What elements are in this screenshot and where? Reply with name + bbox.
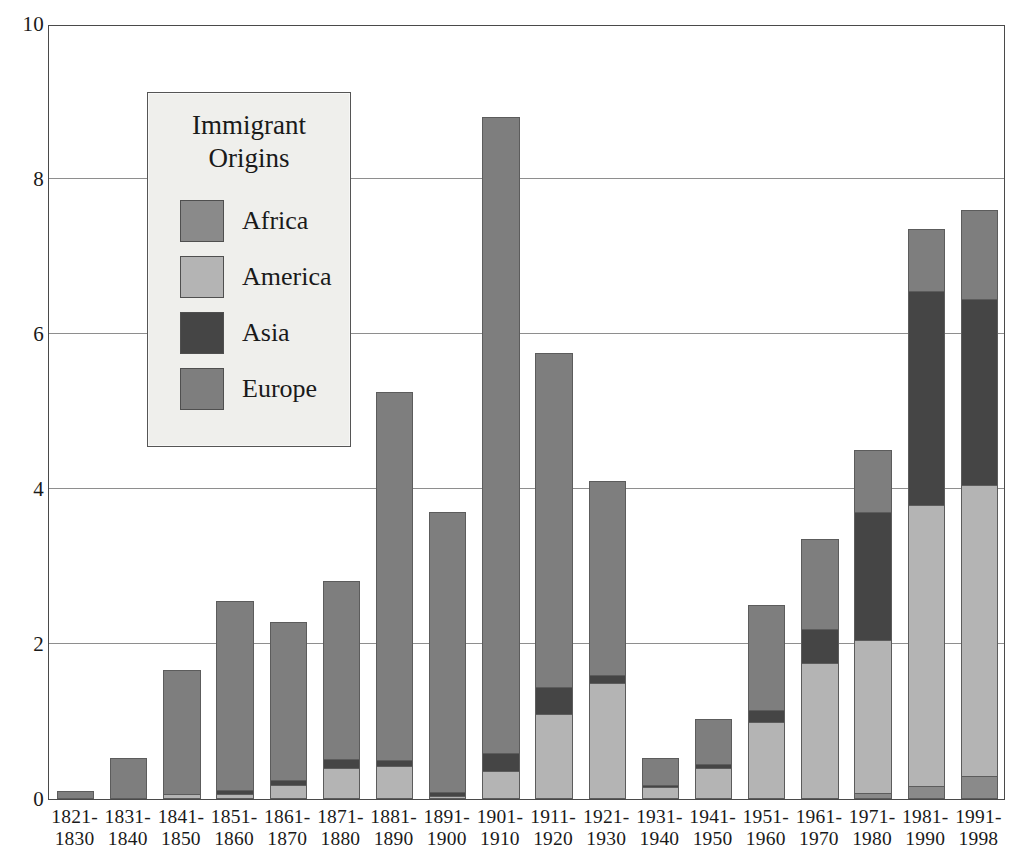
bar-group[interactable] [535,24,572,799]
bar-segment-asia[interactable] [908,291,945,504]
bar-group[interactable] [429,24,466,799]
bar-segment-asia[interactable] [535,687,572,714]
x-tick-line: 1891- [420,806,473,828]
bar-segment-america[interactable] [429,796,466,799]
bar-segment-europe[interactable] [535,353,572,686]
legend-item-america[interactable]: America [180,249,350,305]
bar-segment-asia[interactable] [482,753,519,772]
x-tick-line: 1880 [314,828,367,850]
bar-segment-europe[interactable] [695,719,732,764]
bar-segment-asia[interactable] [376,760,413,765]
x-tick-line: 1841- [154,806,207,828]
bar-segment-asia[interactable] [695,764,732,768]
legend-item-asia[interactable]: Asia [180,305,350,361]
bar-segment-europe[interactable] [961,210,998,299]
y-tick-label-0: 0 [6,789,44,810]
bar-group[interactable] [376,24,413,799]
x-tick-line: 1901- [473,806,526,828]
bar-group[interactable] [57,24,94,799]
bar-segment-africa[interactable] [854,793,891,799]
x-tick-label: 1881-1890 [367,806,420,850]
bar-segment-africa[interactable] [961,776,998,799]
x-tick-line: 1998 [952,828,1005,850]
bar-segment-europe[interactable] [110,758,147,798]
bar-segment-europe[interactable] [57,791,94,798]
bar-segment-asia[interactable] [642,785,679,787]
legend-item-africa[interactable]: Africa [180,193,350,249]
bar-segment-asia[interactable] [961,299,998,485]
bar-group[interactable] [854,24,891,799]
x-tick-label: 1981-1990 [899,806,952,850]
x-tick-line: 1961- [792,806,845,828]
bar-segment-america[interactable] [695,768,732,799]
bar-segment-america[interactable] [323,768,360,799]
x-tick-line: 1920 [527,828,580,850]
x-tick-line: 1821- [48,806,101,828]
bar-segment-europe[interactable] [854,450,891,512]
legend-label-america: America [242,262,332,292]
bar-segment-america[interactable] [642,787,679,799]
bar-group[interactable] [695,24,732,799]
bar-segment-europe[interactable] [270,622,307,781]
bar-segment-europe[interactable] [216,601,253,791]
bar-group[interactable] [748,24,785,799]
y-tick-label-2: 2 [6,634,44,655]
x-tick-label: 1891-1900 [420,806,473,850]
bar-group[interactable] [961,24,998,799]
bar-group[interactable] [801,24,838,799]
bar-segment-asia[interactable] [429,792,466,796]
bar-segment-asia[interactable] [270,780,307,785]
x-tick-line: 1881- [367,806,420,828]
bar-segment-america[interactable] [163,794,200,799]
bar-group[interactable] [589,24,626,799]
bar-segment-america[interactable] [589,683,626,799]
bar-segment-america[interactable] [854,640,891,793]
bar-segment-asia[interactable] [854,512,891,640]
x-tick-label: 1931-1940 [633,806,686,850]
bar-segment-europe[interactable] [482,117,519,753]
bar-segment-europe[interactable] [429,512,466,792]
bar-group[interactable] [908,24,945,799]
x-tick-label: 1961-1970 [792,806,845,850]
bar-segment-europe[interactable] [801,539,838,628]
x-tick-label: 1861-1870 [261,806,314,850]
bar-segment-asia[interactable] [216,790,253,793]
bar-segment-asia[interactable] [748,710,785,722]
x-axis: 1821-18301831-18401841-18501851-18601861… [48,806,1005,851]
x-tick-line: 1840 [101,828,154,850]
x-tick-line: 1870 [261,828,314,850]
bar-segment-america[interactable] [270,785,307,799]
bar-segment-europe[interactable] [642,758,679,785]
bar-group[interactable] [110,24,147,799]
bar-segment-america[interactable] [908,505,945,786]
bar-segment-europe[interactable] [323,581,360,758]
bar-segment-europe[interactable] [163,670,200,795]
legend-items: AfricaAmericaAsiaEurope [148,193,350,417]
bar-segment-america[interactable] [216,794,253,799]
y-axis: 0246810 [0,0,44,851]
bar-segment-africa[interactable] [908,786,945,799]
bar-group[interactable] [642,24,679,799]
x-tick-line: 1850 [154,828,207,850]
x-tick-label: 1901-1910 [473,806,526,850]
x-tick-label: 1941-1950 [686,806,739,850]
legend-title-line: Immigrant [148,109,350,142]
legend-label-asia: Asia [242,318,290,348]
x-tick-line: 1860 [208,828,261,850]
bar-segment-america[interactable] [748,722,785,800]
bar-segment-america[interactable] [801,663,838,799]
x-tick-line: 1921- [580,806,633,828]
bar-segment-europe[interactable] [376,392,413,760]
bar-segment-asia[interactable] [801,629,838,664]
bar-group[interactable] [482,24,519,799]
bar-segment-asia[interactable] [323,759,360,768]
bar-segment-america[interactable] [482,771,519,799]
bar-segment-europe[interactable] [589,481,626,675]
bar-segment-america[interactable] [535,714,572,799]
bar-segment-asia[interactable] [589,675,626,683]
bar-segment-europe[interactable] [748,605,785,710]
bar-segment-europe[interactable] [908,229,945,291]
bar-segment-america[interactable] [961,485,998,776]
legend-item-europe[interactable]: Europe [180,361,350,417]
bar-segment-america[interactable] [376,766,413,799]
